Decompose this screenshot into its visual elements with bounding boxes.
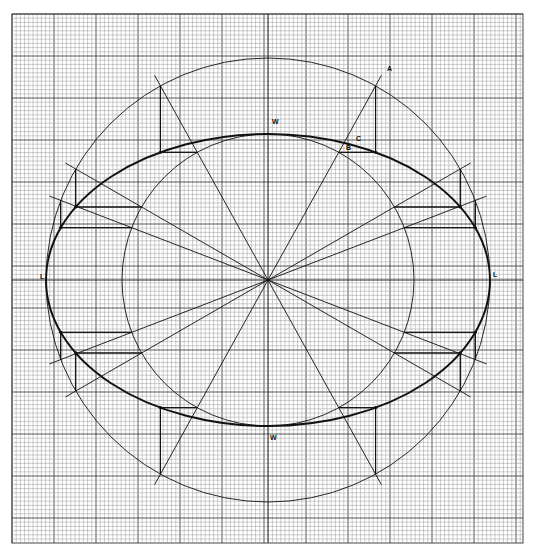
label-b: B (346, 144, 351, 151)
label-w-top: W (272, 118, 279, 125)
label-w-bottom: W (270, 434, 277, 441)
ellipse-point (474, 331, 477, 334)
label-c: C (356, 135, 361, 142)
label-a: A (387, 65, 392, 72)
ellipse-construction-diagram: ABCWWLL (0, 0, 537, 555)
ellipse-point (59, 226, 62, 229)
label-l-right: L (493, 271, 498, 278)
ellipse-point (459, 206, 462, 209)
ellipse-point (74, 352, 77, 355)
ellipse-point (374, 151, 377, 154)
ellipse-point (59, 331, 62, 334)
ellipse-point (374, 406, 377, 409)
ellipse-point (159, 151, 162, 154)
ellipse-point (159, 406, 162, 409)
ellipse-point (474, 226, 477, 229)
label-l-left: L (40, 273, 45, 280)
